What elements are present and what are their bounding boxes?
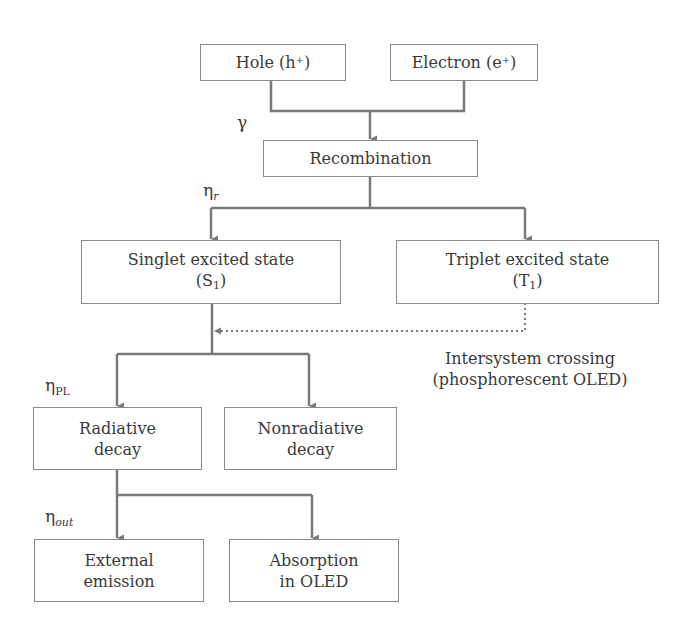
radiative-decay-box: Radiative decay: [33, 407, 202, 470]
nonradiative-decay-box: Nonradiative decay: [224, 407, 397, 470]
eta-pl-label: ηPL: [45, 375, 70, 398]
triplet-line1: Triplet excited state: [446, 249, 610, 270]
singlet-symbol: (S1): [196, 270, 226, 296]
triplet-box: Triplet excited state (T1): [396, 240, 659, 304]
electron-label: Electron (e⁺): [412, 52, 517, 73]
electron-box: Electron (e⁺): [390, 44, 538, 81]
eta-r-label: ηr: [203, 180, 218, 203]
external-emission-box: External emission: [34, 539, 204, 602]
absorption-box: Absorption in OLED: [229, 539, 399, 602]
singlet-box: Singlet excited state (S1): [81, 240, 341, 304]
intersystem-crossing-note: Intersystem crossing (phosphorescent OLE…: [410, 348, 650, 390]
recombination-box: Recombination: [263, 140, 478, 177]
triplet-symbol: (T1): [512, 270, 542, 296]
singlet-line1: Singlet excited state: [128, 249, 295, 270]
recombination-label: Recombination: [310, 148, 432, 169]
eta-out-label: ηout: [45, 506, 73, 529]
hole-box: Hole (h⁺): [200, 44, 346, 81]
hole-label: Hole (h⁺): [236, 52, 311, 73]
gamma-label: γ: [237, 112, 247, 132]
